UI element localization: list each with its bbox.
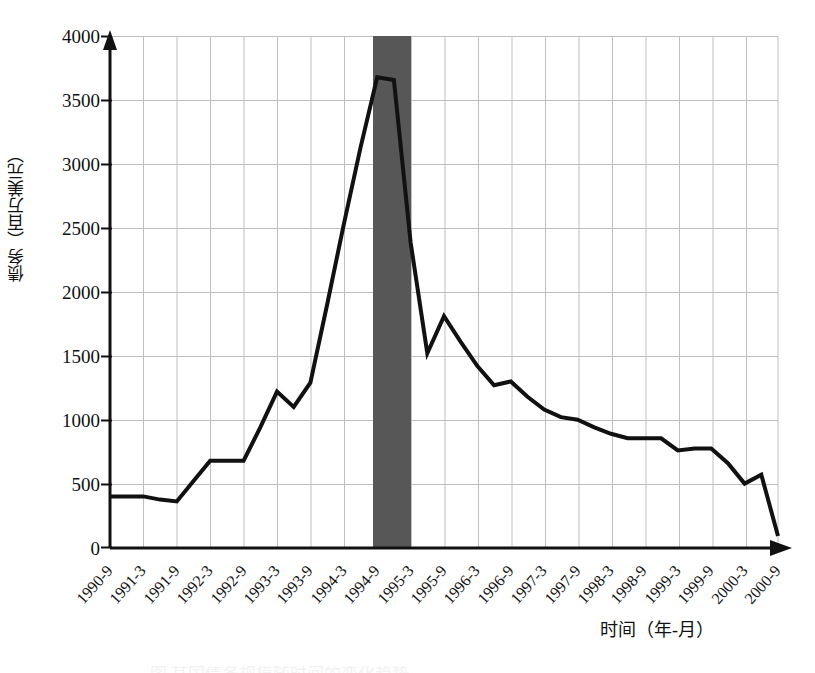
figure-caption: 图 某国债务规模随时间的变化趋势 — [150, 666, 409, 673]
x-axis-title: 时间（年-月） — [600, 620, 714, 640]
x-axis-tick-labels: 1990-91991-31991-91992-31992-91993-31993… — [0, 0, 815, 673]
debt-time-series-chart: 债务（百万美元） 4000 3500 3000 2500 2000 1500 1… — [0, 0, 815, 673]
